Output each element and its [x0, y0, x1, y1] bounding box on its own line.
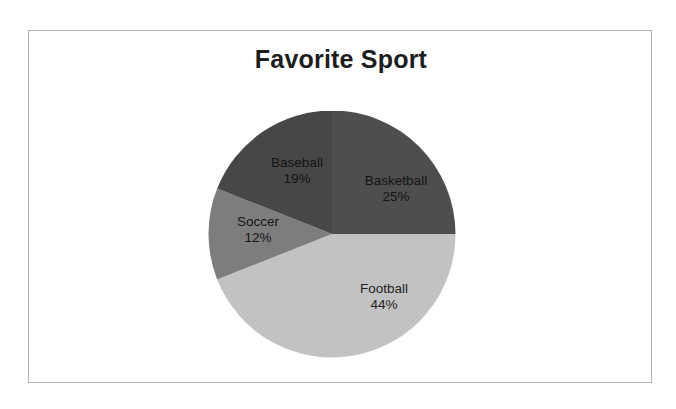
pie-slice-group — [208, 111, 455, 358]
pie-chart: Basketball 25% Football 44% Soccer 12% B… — [208, 111, 456, 359]
pie-slice-basketball — [332, 111, 456, 234]
pie-svg — [208, 111, 456, 359]
chart-frame: Favorite Sport Basketball 25% Football 4… — [28, 30, 652, 383]
chart-title: Favorite Sport — [29, 45, 653, 74]
screenshot-root: Favorite Sport Basketball 25% Football 4… — [0, 0, 676, 409]
